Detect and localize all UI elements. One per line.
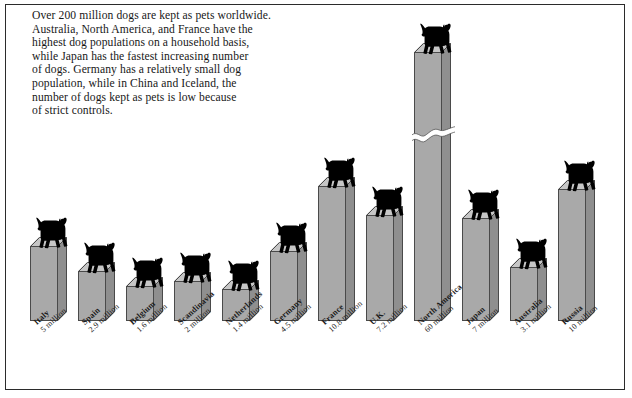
bar-outline bbox=[414, 43, 451, 321]
bar-chart: Italy5 millionSpain2.9 millionBelgium1.6… bbox=[0, 0, 632, 398]
bar-north-america bbox=[414, 43, 451, 321]
